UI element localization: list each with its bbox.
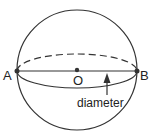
point-b-dot bbox=[135, 69, 140, 74]
center-o-dot bbox=[75, 68, 79, 72]
label-a: A bbox=[3, 68, 12, 83]
diagram-canvas: A B O diameter bbox=[0, 0, 159, 140]
label-o: O bbox=[73, 73, 83, 88]
label-diameter: diameter bbox=[77, 96, 124, 110]
sphere-diagram: A B O diameter bbox=[0, 0, 159, 140]
point-a-dot bbox=[15, 69, 20, 74]
label-b: B bbox=[140, 68, 149, 83]
arrow-head-icon bbox=[104, 73, 111, 83]
